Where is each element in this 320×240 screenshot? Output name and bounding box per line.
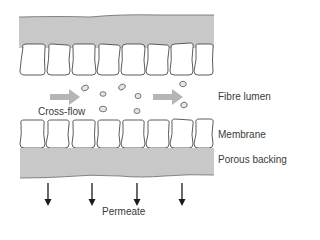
porous-backing-label: Porous backing [218, 155, 287, 165]
cross-flow-arrows [50, 89, 183, 105]
top-membrane-cells [20, 43, 213, 75]
permeate-arrow-3 [134, 183, 141, 206]
fibre-lumen-label: Fibre lumen [218, 92, 271, 102]
permeate-arrow-1 [45, 183, 52, 206]
flow-arrow-right [153, 89, 183, 105]
permeate-arrows [45, 183, 186, 206]
flow-arrow-left [50, 89, 80, 105]
bottom-porous-backing [20, 148, 214, 178]
permeate-arrow-4 [179, 183, 186, 206]
permeate-arrow-2 [89, 183, 96, 206]
bottom-membrane-cells [20, 119, 213, 148]
permeate-label: Permeate [102, 207, 145, 217]
cross-flow-label: Cross-flow [38, 107, 85, 117]
membrane-label: Membrane [218, 130, 266, 140]
